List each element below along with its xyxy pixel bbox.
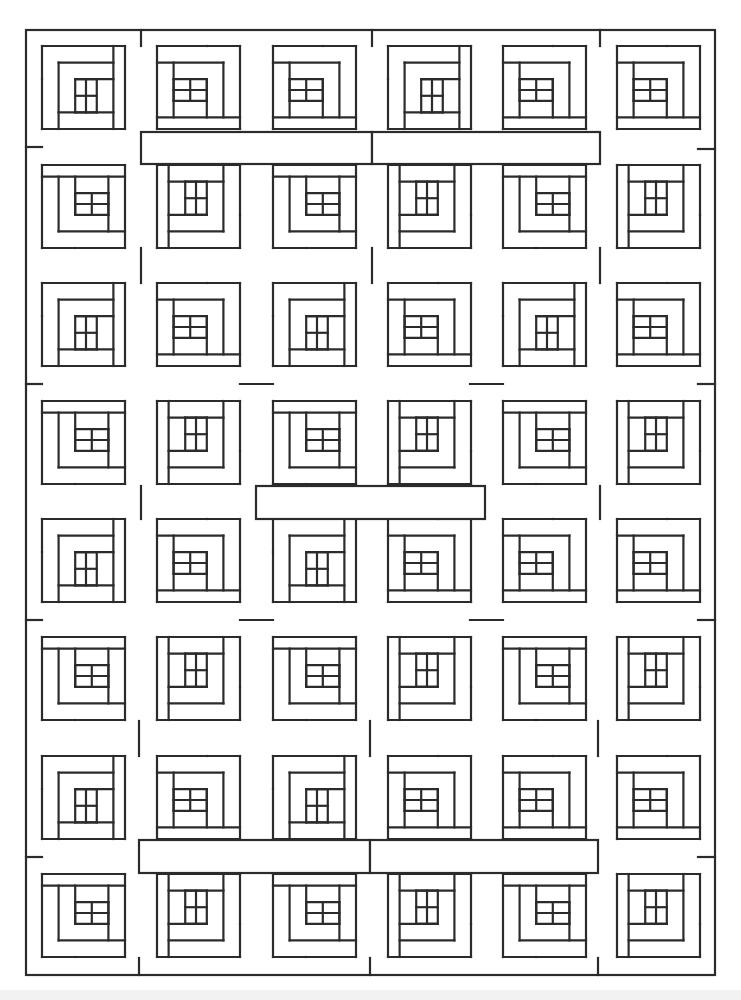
log-cabin-block [157, 283, 240, 366]
quilt-coloring-page [0, 0, 741, 1000]
log-cabin-block [388, 165, 471, 248]
log-cabin-block [617, 165, 700, 248]
log-cabin-block [273, 756, 356, 839]
log-cabin-block [388, 283, 471, 366]
log-cabin-block [42, 165, 125, 248]
sashing-strip [139, 840, 370, 873]
log-cabin-block [273, 874, 356, 957]
log-cabin-block [42, 756, 125, 839]
sashing-strip [370, 840, 598, 873]
log-cabin-block [503, 165, 586, 248]
log-cabin-block [42, 519, 125, 602]
log-cabin-block [273, 401, 356, 484]
sashing-strips [139, 132, 600, 873]
log-cabin-block [273, 519, 356, 602]
log-cabin-block [273, 637, 356, 720]
log-cabin-block [617, 401, 700, 484]
log-cabin-block [388, 46, 471, 129]
log-cabin-block [157, 756, 240, 839]
log-cabin-block [42, 874, 125, 957]
log-cabin-block [388, 874, 471, 957]
page-bottom-margin [0, 990, 741, 1000]
log-cabin-block [42, 46, 125, 129]
log-cabin-block [503, 874, 586, 957]
log-cabin-block [157, 637, 240, 720]
log-cabin-block [42, 401, 125, 484]
quilt-drawing [0, 0, 741, 1000]
log-cabin-block [503, 756, 586, 839]
log-cabin-block [157, 46, 240, 129]
log-cabin-block [157, 165, 240, 248]
log-cabin-block [617, 519, 700, 602]
log-cabin-block [503, 637, 586, 720]
log-cabin-block [617, 756, 700, 839]
log-cabin-block [42, 283, 125, 366]
log-cabin-block [503, 401, 586, 484]
log-cabin-block [617, 46, 700, 129]
log-cabin-block [273, 46, 356, 129]
log-cabin-block [157, 874, 240, 957]
log-cabin-block [388, 756, 471, 839]
log-cabin-block [617, 637, 700, 720]
sashing-strip [141, 132, 372, 164]
log-cabin-block [617, 283, 700, 366]
log-cabin-block [503, 46, 586, 129]
log-cabin-block [617, 874, 700, 957]
log-cabin-block [157, 519, 240, 602]
sashing-strip [256, 486, 485, 519]
log-cabin-block [273, 165, 356, 248]
log-cabin-block [42, 637, 125, 720]
log-cabin-block [388, 401, 471, 484]
log-cabin-block [388, 519, 471, 602]
sashing-strip [372, 132, 600, 164]
log-cabin-block [273, 283, 356, 366]
log-cabin-block [503, 519, 586, 602]
log-cabin-block [503, 283, 586, 366]
log-cabin-block [157, 401, 240, 484]
log-cabin-block [388, 637, 471, 720]
